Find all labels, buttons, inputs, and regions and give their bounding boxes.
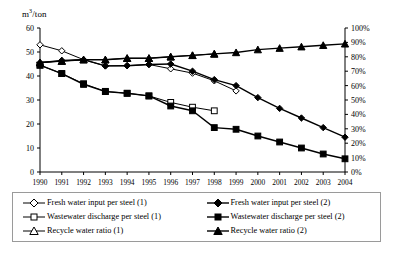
legend-label: Recycle water ratio (2) [231, 226, 307, 236]
svg-text:2003: 2003 [316, 178, 331, 187]
svg-text:20%: 20% [351, 139, 366, 148]
svg-text:1993: 1993 [98, 178, 113, 187]
legend-item-fresh-water-2[interactable]: Fresh water input per steel (2) [205, 196, 381, 210]
y-axis-label: m3/ton [22, 6, 47, 20]
svg-text:2004: 2004 [338, 178, 353, 187]
triangle-open-icon [21, 225, 47, 237]
svg-text:2002: 2002 [294, 178, 309, 187]
svg-text:1994: 1994 [120, 178, 135, 187]
legend-column-left: Fresh water input per steel (1) Wastewat… [13, 196, 197, 241]
legend-item-recycle-1[interactable]: Recycle water ratio (1) [21, 224, 197, 238]
svg-text:60: 60 [26, 24, 34, 33]
svg-text:1992: 1992 [76, 178, 91, 187]
legend-column-right: Fresh water input per steel (2) Wastewat… [197, 196, 381, 241]
svg-text:60%: 60% [351, 82, 366, 91]
svg-text:80%: 80% [351, 53, 366, 62]
chart-svg: 01020304050600%10%20%30%40%50%60%70%80%9… [0, 22, 393, 190]
svg-text:70%: 70% [351, 67, 366, 76]
svg-text:30: 30 [26, 96, 34, 105]
svg-text:0: 0 [30, 168, 34, 177]
chart-figure: m3/ton 01020304050600%10%20%30%40%50%60%… [0, 0, 393, 253]
svg-text:1990: 1990 [33, 178, 48, 187]
svg-text:40: 40 [26, 72, 34, 81]
triangle-filled-icon [205, 225, 231, 237]
svg-text:2001: 2001 [272, 178, 287, 187]
svg-text:1991: 1991 [54, 178, 69, 187]
svg-text:1999: 1999 [229, 178, 244, 187]
y-axis-label-rest: /ton [32, 9, 46, 19]
svg-text:90%: 90% [351, 38, 366, 47]
square-filled-icon [205, 211, 231, 223]
chart-legend: Fresh water input per steel (1) Wastewat… [12, 192, 381, 242]
legend-label: Wastewater discharge per steel (1) [47, 212, 161, 222]
legend-label: Wastewater discharge per steel (2) [231, 212, 345, 222]
diamond-open-icon [21, 197, 47, 209]
legend-label: Fresh water input per steel (2) [231, 198, 331, 208]
legend-item-recycle-2[interactable]: Recycle water ratio (2) [205, 224, 381, 238]
svg-text:1995: 1995 [142, 178, 157, 187]
svg-text:1998: 1998 [207, 178, 222, 187]
legend-item-wastewater-1[interactable]: Wastewater discharge per steel (1) [21, 210, 197, 224]
svg-text:10: 10 [26, 144, 34, 153]
svg-text:0%: 0% [351, 168, 362, 177]
svg-text:50: 50 [26, 48, 34, 57]
square-open-icon [21, 211, 47, 223]
diamond-filled-icon [205, 197, 231, 209]
svg-text:40%: 40% [351, 110, 366, 119]
legend-label: Fresh water input per steel (1) [47, 198, 147, 208]
svg-text:30%: 30% [351, 125, 366, 134]
svg-text:50%: 50% [351, 96, 366, 105]
legend-item-fresh-water-1[interactable]: Fresh water input per steel (1) [21, 196, 197, 210]
svg-text:20: 20 [26, 120, 34, 129]
svg-text:1997: 1997 [185, 178, 200, 187]
svg-text:1996: 1996 [163, 178, 178, 187]
legend-label: Recycle water ratio (1) [47, 226, 123, 236]
svg-text:10%: 10% [351, 154, 366, 163]
svg-text:2000: 2000 [250, 178, 265, 187]
svg-text:100%: 100% [351, 24, 370, 33]
plot-area: 01020304050600%10%20%30%40%50%60%70%80%9… [0, 22, 393, 182]
legend-item-wastewater-2[interactable]: Wastewater discharge per steel (2) [205, 210, 381, 224]
